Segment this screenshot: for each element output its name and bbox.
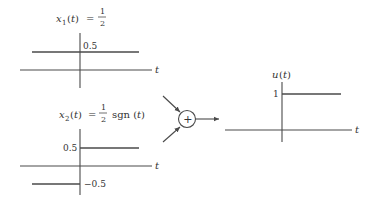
input-arrow-x1 <box>163 96 180 112</box>
x2-positive-label: 0.5 <box>63 143 78 153</box>
signal-sum-diagram: x 1 (t) = 1 2 0.5 t x 2 (t) = 1 2 sgn (t… <box>0 0 375 203</box>
svg-text:=: = <box>86 13 94 24</box>
x2-title: x 2 (t) = 1 2 sgn (t) <box>59 103 145 124</box>
svg-text:sgn (t): sgn (t) <box>112 109 145 120</box>
x1-arg: (t) <box>67 13 79 24</box>
x1-axis-label: t <box>155 64 160 75</box>
svg-text:(t): (t) <box>279 69 291 80</box>
x1-level-label: 0.5 <box>83 41 98 51</box>
svg-text:2: 2 <box>101 115 106 124</box>
x1-title: x 1 (t) = 1 2 <box>56 7 106 28</box>
x2-axis-label: t <box>155 160 160 171</box>
plot-x1: x 1 (t) = 1 2 0.5 t <box>20 7 160 88</box>
plot-x2: x 2 (t) = 1 2 sgn (t) 0.5 −0.5 t <box>20 103 160 195</box>
input-arrow-x2 <box>163 127 180 142</box>
svg-text:u: u <box>272 69 278 80</box>
svg-text:2: 2 <box>65 115 69 123</box>
plot-u: u (t) 1 t <box>225 69 360 142</box>
u-level-label: 1 <box>273 89 279 99</box>
svg-text:1: 1 <box>100 7 105 16</box>
u-title: u (t) <box>272 69 291 80</box>
svg-text:(t): (t) <box>70 109 82 120</box>
summing-junction: + <box>163 96 219 142</box>
svg-text:2: 2 <box>100 19 105 28</box>
svg-text:1: 1 <box>101 103 106 112</box>
u-axis-label: t <box>355 124 360 135</box>
plus-icon: + <box>183 113 192 126</box>
svg-text:1: 1 <box>62 19 66 27</box>
x2-negative-label: −0.5 <box>84 179 106 189</box>
svg-text:=: = <box>88 109 96 120</box>
